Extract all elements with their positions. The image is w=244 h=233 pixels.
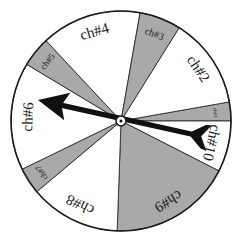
spinner-diagram: ch#1ch#10ch#9ch#8ch#7ch#6ch#5ch#4ch#3ch#… [0, 0, 244, 233]
hub-pin-icon [120, 120, 123, 123]
sector-label-ch6: ch#6 [19, 102, 36, 132]
sector-label-ch1: ch#1 [212, 108, 218, 119]
spinner-svg: ch#1ch#10ch#9ch#8ch#7ch#6ch#5ch#4ch#3ch#… [0, 0, 244, 233]
